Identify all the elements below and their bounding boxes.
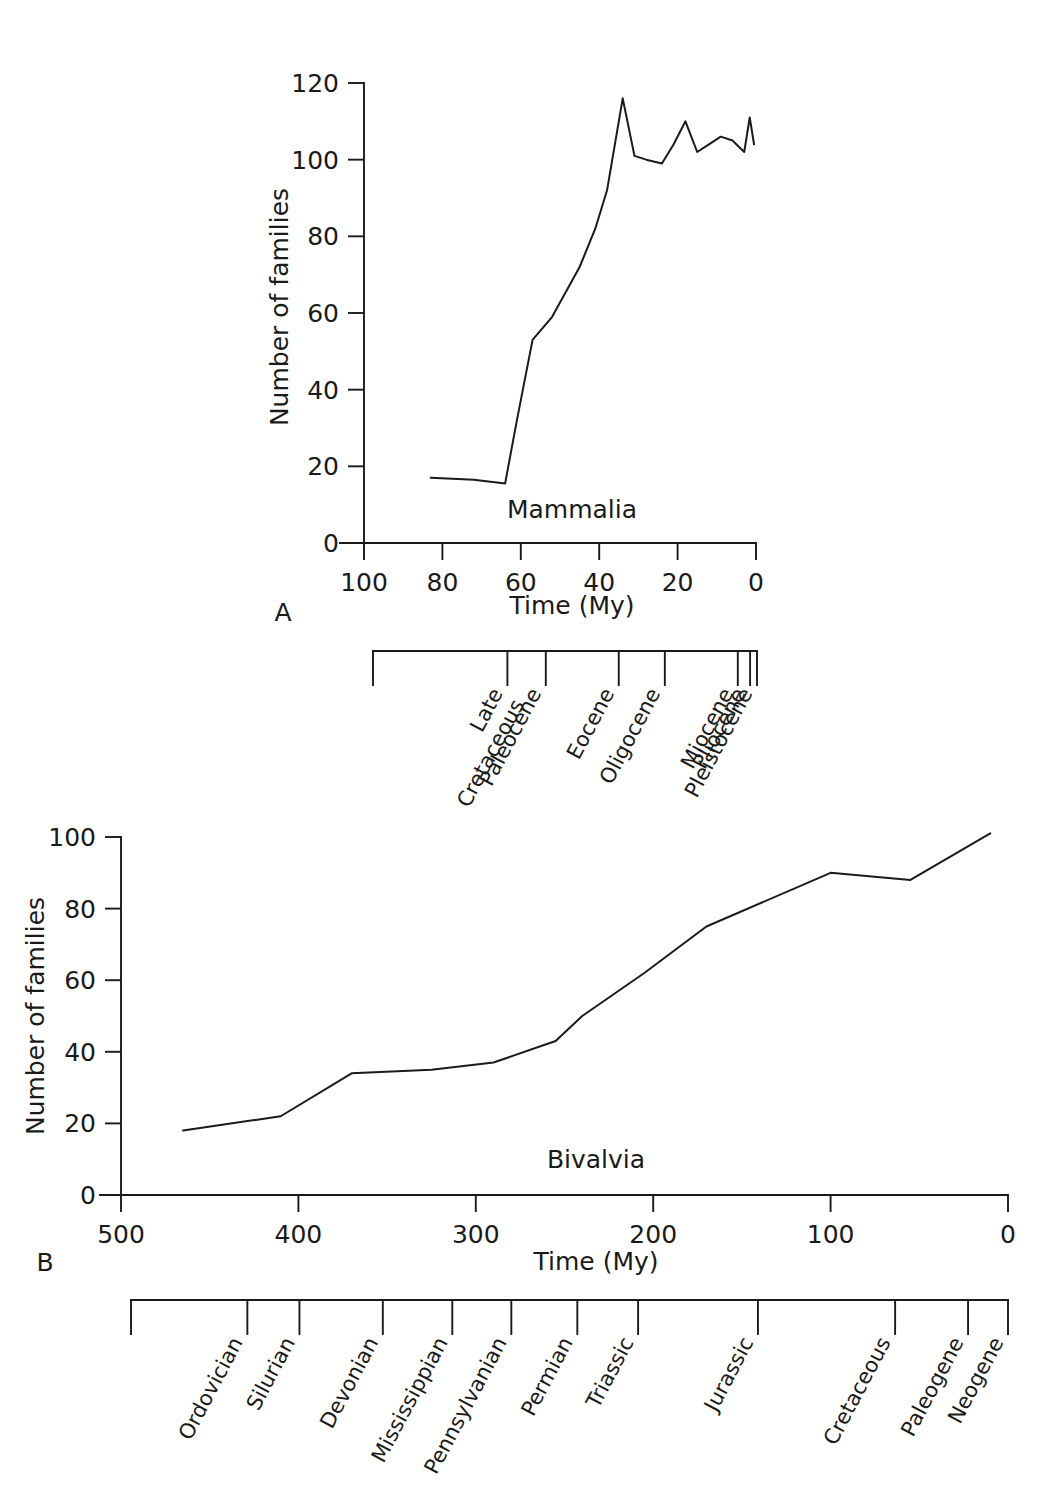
y-tick-label: 0 <box>323 529 339 558</box>
y-tick-label: 40 <box>307 376 339 405</box>
panel-a-x-ticks <box>364 543 756 560</box>
panel-b-timescale-ticks <box>131 1300 1008 1334</box>
timescale-label-line: Silurian <box>242 1333 300 1414</box>
y-tick-label: 100 <box>48 823 96 852</box>
panel-b-timescale: OrdovicianSilurianDevonianMississippianP… <box>131 1300 1008 1478</box>
panel-b-series-label: Bivalvia <box>547 1145 645 1174</box>
panel-a-timescale-ticks <box>373 651 757 685</box>
panel-b-x-ticks <box>121 1195 1008 1212</box>
timescale-label-line: Jurassic <box>699 1333 759 1417</box>
y-tick-label: 100 <box>291 146 339 175</box>
y-tick-label: 20 <box>64 1109 96 1138</box>
timescale-label-line: Permian <box>516 1333 577 1420</box>
x-tick-label: 100 <box>340 568 388 597</box>
timescale-label-line: Ordovician <box>174 1333 248 1444</box>
timescale-label-line: Cretaceous <box>819 1333 896 1449</box>
timescale-label: Triassic <box>581 1333 639 1413</box>
panel-b-y-ticks <box>105 837 121 1195</box>
panel-a-label: A <box>274 598 291 627</box>
y-tick-label: 0 <box>80 1181 96 1210</box>
timescale-label: Cretaceous <box>819 1333 896 1449</box>
timescale-label-line: Devonian <box>315 1333 383 1432</box>
panel-a-timescale: LateCretaceousPaleoceneEoceneOligoceneMi… <box>373 651 757 811</box>
panel-a-y-tick-labels: 020406080100120 <box>291 69 339 558</box>
panel-a-series-label: Mammalia <box>507 495 637 524</box>
x-tick-label: 400 <box>275 1220 323 1249</box>
panel-b-y-tick-labels: 020406080100 <box>48 823 96 1210</box>
panel-b-timescale-labels: OrdovicianSilurianDevonianMississippianP… <box>174 1333 1009 1478</box>
panel-b-data-line <box>183 833 990 1130</box>
y-tick-label: 60 <box>64 966 96 995</box>
y-tick-label: 80 <box>64 895 96 924</box>
x-tick-label: 20 <box>662 568 694 597</box>
panel-a: 020406080100120 100806040200 Mammalia Ti… <box>265 69 764 811</box>
y-tick-label: 40 <box>64 1038 96 1067</box>
timescale-label: Permian <box>516 1333 577 1420</box>
panel-b: 020406080100 5004003002001000 Bivalvia T… <box>21 823 1016 1478</box>
timescale-label: Ordovician <box>174 1333 248 1444</box>
x-tick-label: 500 <box>97 1220 145 1249</box>
figure-root: 020406080100120 100806040200 Mammalia Ti… <box>0 0 1050 1510</box>
x-tick-label: 80 <box>426 568 458 597</box>
x-tick-label: 0 <box>748 568 764 597</box>
y-tick-label: 20 <box>307 452 339 481</box>
x-tick-label: 100 <box>807 1220 855 1249</box>
panel-b-label: B <box>36 1248 53 1277</box>
panel-a-y-ticks <box>348 83 364 543</box>
x-tick-label: 300 <box>452 1220 500 1249</box>
panel-a-x-axis-label: Time (My) <box>509 591 635 620</box>
panel-b-y-axis-label: Number of families <box>21 897 50 1135</box>
panel-a-timescale-labels: LateCretaceousPaleoceneEoceneOligoceneMi… <box>431 684 757 811</box>
panel-a-data-line <box>431 98 754 483</box>
y-tick-label: 60 <box>307 299 339 328</box>
timescale-label: Devonian <box>315 1333 383 1432</box>
x-tick-label: 200 <box>629 1220 677 1249</box>
timescale-label: Jurassic <box>699 1333 759 1417</box>
timescale-label-line: Triassic <box>581 1333 639 1413</box>
figure-canvas: 020406080100120 100806040200 Mammalia Ti… <box>0 0 1050 1510</box>
x-tick-label: 0 <box>1000 1220 1016 1249</box>
panel-b-x-tick-labels: 5004003002001000 <box>97 1220 1016 1249</box>
panel-b-x-axis-label: Time (My) <box>533 1247 659 1276</box>
y-tick-label: 120 <box>291 69 339 98</box>
panel-a-y-axis-label: Number of families <box>265 188 294 426</box>
y-tick-label: 80 <box>307 222 339 251</box>
timescale-label: Silurian <box>242 1333 300 1414</box>
